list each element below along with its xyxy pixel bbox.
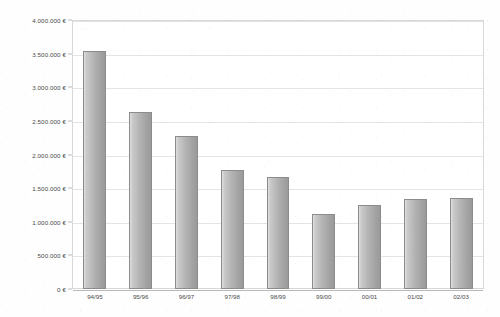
bar-slot: [358, 20, 381, 289]
x-axis-tick-label: 01/02: [392, 293, 438, 300]
x-axis: 94/9595/9696/9797/9898/9999/0000/0101/02…: [72, 293, 484, 311]
y-axis-tick-label: 4.000.000 €: [0, 17, 66, 24]
bar-slot: [404, 20, 427, 289]
y-axis-tick-label: 1.500.000 €: [0, 185, 66, 192]
bar[interactable]: [450, 198, 473, 289]
bar-slot: [83, 20, 106, 289]
bar[interactable]: [221, 170, 244, 289]
y-axis-tick-label: 1.000.000 €: [0, 218, 66, 225]
x-axis-tick-label: 94/95: [72, 293, 118, 300]
x-axis-tick-label: 02/03: [438, 293, 484, 300]
gridline: [73, 290, 483, 291]
bar[interactable]: [312, 214, 335, 289]
bar-slot: [221, 20, 244, 289]
y-axis-tick-label: 2.000.000 €: [0, 151, 66, 158]
y-axis-tick-label: 0 €: [0, 286, 66, 293]
bar-chart: 0 €500.000 €1.000.000 €1.500.000 €2.000.…: [0, 0, 500, 317]
bar[interactable]: [358, 205, 381, 289]
y-axis-tick-label: 500.000 €: [0, 252, 66, 259]
y-axis-tick-label: 3.000.000 €: [0, 84, 66, 91]
bar[interactable]: [175, 136, 198, 289]
y-axis: 0 €500.000 €1.000.000 €1.500.000 €2.000.…: [0, 20, 66, 289]
x-axis-tick-label: 00/01: [347, 293, 393, 300]
y-axis-tick-label: 3.500.000 €: [0, 50, 66, 57]
bar-slot: [175, 20, 198, 289]
bar[interactable]: [129, 112, 152, 289]
x-axis-tick-label: 98/99: [255, 293, 301, 300]
bar-slot: [312, 20, 335, 289]
x-axis-tick-label: 96/97: [164, 293, 210, 300]
bar[interactable]: [404, 199, 427, 289]
bar-slot: [129, 20, 152, 289]
x-axis-tick-label: 99/00: [301, 293, 347, 300]
bar-slot: [267, 20, 290, 289]
x-axis-tick-label: 95/96: [118, 293, 164, 300]
x-axis-tick-label: 97/98: [209, 293, 255, 300]
bar[interactable]: [83, 51, 106, 289]
y-axis-tick-label: 2.500.000 €: [0, 117, 66, 124]
bar-slot: [450, 20, 473, 289]
bar[interactable]: [267, 177, 290, 289]
bars-layer: [72, 20, 484, 289]
